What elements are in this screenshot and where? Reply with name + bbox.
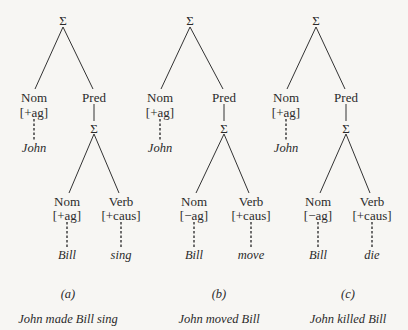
- branch-root-to-pred: [316, 27, 345, 89]
- subject-word: John: [22, 142, 46, 155]
- verb-feature: [+caus]: [231, 209, 270, 222]
- embedded-sigma: Σ: [342, 122, 350, 135]
- tree-label: (a): [61, 288, 76, 301]
- object-category: Nom: [54, 195, 80, 208]
- subject-category: Nom: [147, 91, 173, 104]
- object-feature: [−ag]: [304, 209, 332, 222]
- root-sigma: Σ: [186, 14, 194, 27]
- branch-sigma-to-verb: [224, 134, 249, 193]
- object-feature: [+ag]: [53, 209, 81, 222]
- verb-word: move: [238, 249, 264, 262]
- predicate-category: Pred: [212, 91, 236, 104]
- predicate-category: Pred: [334, 91, 358, 104]
- branch-root-to-pred: [190, 27, 223, 89]
- branch-root-to-pred: [63, 27, 93, 89]
- subject-feature: [+ag]: [20, 106, 48, 119]
- object-word: Bill: [58, 249, 76, 262]
- branch-sigma-to-verb: [346, 134, 370, 193]
- root-sigma: Σ: [312, 14, 320, 27]
- root-sigma: Σ: [59, 14, 67, 27]
- verb-category: Verb: [360, 195, 385, 208]
- subject-category: Nom: [21, 91, 47, 104]
- branch-root-to-nom: [35, 27, 63, 89]
- object-word: Bill: [309, 249, 327, 262]
- tree-caption: John killed Bill: [310, 313, 386, 326]
- embedded-sigma: Σ: [90, 122, 98, 135]
- tree-label: (b): [212, 288, 227, 301]
- subject-category: Nom: [273, 91, 299, 104]
- verb-word: sing: [111, 249, 132, 262]
- predicate-category: Pred: [82, 91, 106, 104]
- object-category: Nom: [305, 195, 331, 208]
- subject-feature: [+ag]: [146, 106, 174, 119]
- tree-caption: John made Bill sing: [18, 313, 118, 326]
- branch-sigma-to-nom: [320, 134, 346, 193]
- verb-feature: [+caus]: [352, 209, 391, 222]
- subject-word: John: [148, 142, 172, 155]
- verb-category: Verb: [239, 195, 264, 208]
- object-category: Nom: [181, 195, 207, 208]
- subject-word: John: [274, 142, 298, 155]
- branch-root-to-nom: [161, 27, 190, 89]
- branch-sigma-to-nom: [69, 134, 94, 193]
- branch-sigma-to-verb: [94, 134, 119, 193]
- branch-root-to-nom: [287, 27, 316, 89]
- verb-feature: [+caus]: [101, 209, 140, 222]
- tree-diagrams: [0, 0, 408, 330]
- embedded-sigma: Σ: [220, 122, 228, 135]
- tree-caption: John moved Bill: [178, 313, 259, 326]
- object-feature: [−ag]: [180, 209, 208, 222]
- object-word: Bill: [185, 249, 203, 262]
- subject-feature: [+ag]: [272, 106, 300, 119]
- branch-sigma-to-nom: [196, 134, 224, 193]
- verb-category: Verb: [109, 195, 134, 208]
- tree-label: (c): [341, 288, 355, 301]
- verb-word: die: [364, 249, 379, 262]
